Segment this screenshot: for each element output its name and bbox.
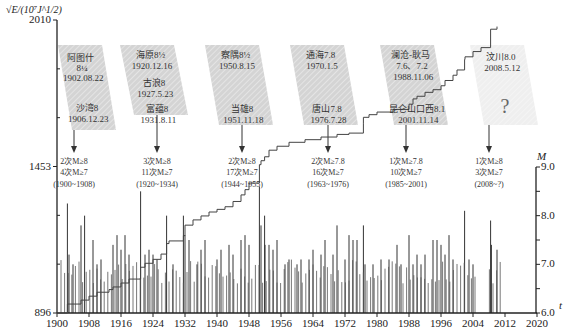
period-summary-line1: 2次M≥8: [228, 156, 256, 167]
event-label: 富蕴8: [146, 104, 169, 114]
period-summary-line2: 3次M≥7: [475, 167, 503, 178]
period-summary-line1: 3次M≥8: [143, 156, 171, 167]
magnitude-bars: [61, 186, 500, 313]
event-label: 8¼: [77, 63, 88, 73]
x-tick-label: 2004: [462, 317, 484, 330]
y-left-tick-label: 1453: [29, 160, 51, 172]
arrow-icon: [239, 125, 245, 153]
event-label: 7.6、7.2: [396, 61, 428, 71]
x-tick-label: 2020: [526, 317, 548, 330]
y-right-tick-label: 7.0: [541, 257, 555, 269]
x-tick-label: 1908: [78, 317, 100, 330]
period-summary-line2: 16次M≥7: [312, 167, 344, 178]
event-label: 沙湾8: [76, 103, 99, 113]
y-right-axis-title: M: [537, 150, 546, 162]
x-tick-label: 1956: [270, 317, 292, 330]
event-label: 1976.7.28: [310, 115, 346, 125]
x-tick-label: 1964: [302, 317, 324, 330]
period-summary-line1: 1次M≥8: [475, 156, 503, 167]
era-boxes: [58, 45, 538, 130]
x-tick-label: 1916: [110, 317, 132, 330]
event-label: 察隅8½: [221, 50, 250, 60]
x-tick-label: 1980: [366, 317, 388, 330]
period-summary-line1: 2次M≥7.8: [311, 156, 345, 167]
x-tick-label: 1932: [174, 317, 196, 330]
arrow-icon: [325, 125, 331, 153]
x-tick-label: 1988: [398, 317, 420, 330]
event-label: 1988.11.06: [393, 72, 433, 82]
unknown-event-marker: ?: [501, 95, 510, 117]
period-summary-line2: 17次M≥7: [226, 167, 258, 178]
x-tick-label: 1940: [206, 317, 228, 330]
event-label: 澜沧-耿马: [391, 50, 430, 60]
event-label: 1950.8.15: [219, 61, 255, 71]
x-axis-title: t: [559, 299, 562, 311]
event-label: 通海7.8: [306, 50, 335, 60]
period-range: (1920~1934): [136, 179, 178, 190]
period-summary-line2: 10次M≥7: [390, 167, 422, 178]
x-tick-label: 1996: [430, 317, 452, 330]
period-range: (1963~1976): [307, 179, 349, 190]
event-label: 当雄8: [231, 104, 254, 114]
period-range: (1944~1955): [221, 179, 263, 190]
x-tick-label: 1948: [238, 317, 260, 330]
period-summary-line2: 4次M≥7: [60, 167, 88, 178]
event-label: 1931.8.11: [141, 115, 177, 125]
y-right-tick-label: 6.0: [541, 306, 555, 318]
period-range: (1900~1908): [53, 179, 95, 190]
event-label: 1906.12.23: [68, 114, 109, 124]
event-label: 1902.08.22: [63, 73, 104, 83]
arrow-icon: [486, 125, 492, 153]
period-range: (1985~2001): [385, 179, 427, 190]
event-label: 1927.5.23: [137, 89, 173, 99]
event-label: 唐山7.8: [312, 104, 341, 114]
period-summary-line1: 1次M≥7.8: [389, 156, 423, 167]
event-label: 汶川8.0: [486, 52, 515, 62]
x-tick-label: 1900: [46, 317, 68, 330]
event-label: 1920.12.16: [132, 61, 173, 71]
y-left-axis-title: √E/(10⁷J^1/2): [6, 4, 62, 15]
period-range: (2008~?): [474, 179, 503, 190]
x-tick-label: 2012: [494, 317, 516, 330]
event-label: 昆仑山口西8.1: [389, 104, 445, 114]
period-summary-line2: 11次M≥7: [141, 167, 172, 178]
y-right-tick-label: 8.0: [541, 209, 555, 221]
event-label: 2001.11.14: [398, 115, 438, 125]
event-label: 1970.1.5: [306, 61, 338, 71]
event-label: 海原8½: [136, 50, 165, 60]
x-tick-label: 1972: [334, 317, 356, 330]
arrow-icon: [403, 125, 409, 153]
event-label: 阿图什: [67, 53, 94, 63]
period-summary-line1: 2次M≥8: [60, 156, 88, 167]
arrow-icon: [71, 130, 77, 153]
event-label: 2008.5.12: [484, 63, 520, 73]
event-label: 古浪8: [143, 78, 166, 88]
x-tick-label: 1924: [142, 317, 164, 330]
event-label: 1951.11.18: [223, 115, 263, 125]
